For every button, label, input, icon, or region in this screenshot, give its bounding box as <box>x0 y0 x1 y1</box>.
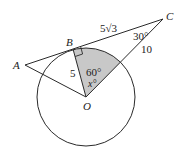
label-A: A <box>12 59 20 71</box>
segment-AO <box>25 65 86 97</box>
label-OB-length: 5 <box>70 67 76 79</box>
label-O: O <box>83 100 91 112</box>
label-BC-length: 5√3 <box>100 22 118 34</box>
geometry-diagram: A B C O 5√3 30° 10 5 60° x° <box>0 0 183 159</box>
label-C: C <box>166 10 174 22</box>
label-OC-length: 10 <box>141 43 153 55</box>
label-angle-x: x° <box>87 78 96 89</box>
label-B: B <box>66 36 73 48</box>
label-angle-C: 30° <box>133 30 148 42</box>
label-angle-BOC: 60° <box>86 66 101 78</box>
